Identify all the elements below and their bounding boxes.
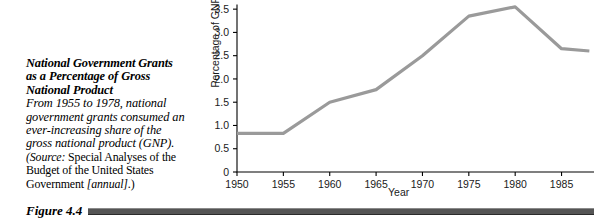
x-tick-label: 1975 — [457, 178, 481, 190]
figure-divider-rule — [88, 208, 594, 215]
data-series-line — [237, 7, 589, 134]
caption-source: (Source: Special Analyses of the Budget … — [26, 151, 186, 191]
caption-body: From 1955 to 1978, national government g… — [26, 97, 186, 151]
figure-number-label: Figure 4.4 — [26, 203, 82, 219]
caption-source-end: .) — [128, 177, 135, 191]
caption-source-lead: (Source: — [26, 150, 65, 164]
caption-title: National Government Grants as a Percenta… — [26, 57, 186, 97]
line-chart: Percentage of GNP Year 00.51.01.52.02.53… — [193, 0, 594, 200]
plot-svg: 00.51.01.52.02.53.03.5 19501955196019651… — [193, 0, 594, 200]
figure-number-row: Figure 4.4 — [26, 203, 594, 219]
figure-caption: National Government Grants as a Percenta… — [26, 57, 186, 191]
figure-container: National Government Grants as a Percenta… — [0, 0, 594, 222]
y-tick-label: 2.5 — [214, 49, 229, 61]
x-tick-label: 1955 — [272, 178, 296, 190]
x-tick-label: 1970 — [411, 178, 435, 190]
x-tick-label: 1965 — [364, 178, 388, 190]
y-axis-ticks: 00.51.01.52.02.53.03.5 — [214, 3, 237, 178]
y-tick-label: 3.5 — [214, 3, 229, 15]
x-tick-label: 1960 — [318, 178, 342, 190]
x-tick-label: 1985 — [550, 178, 574, 190]
y-tick-label: 1.0 — [214, 119, 229, 131]
x-axis-ticks: 19501955196019651970197519801985 — [225, 172, 573, 190]
y-tick-label: 2.0 — [214, 73, 229, 85]
x-tick-label: 1980 — [504, 178, 528, 190]
y-tick-label: 3.0 — [214, 26, 229, 38]
y-tick-label: 1.5 — [214, 96, 229, 108]
x-tick-label: 1950 — [225, 178, 249, 190]
y-tick-label: 0 — [223, 166, 229, 178]
caption-source-tail: [annual] — [87, 177, 128, 191]
y-tick-label: 0.5 — [214, 142, 229, 154]
